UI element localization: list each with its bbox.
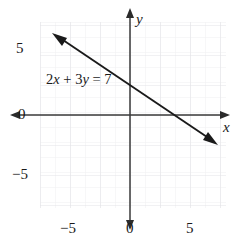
y-tick-label-neg5: −5 [12,167,28,182]
x-tick-label-neg5: −5 [60,221,76,236]
x-axis-name-label: x [223,120,230,135]
coordinate-plane-svg [0,0,245,246]
y-tick-label-0: 0 [18,107,26,122]
y-axis-name-label: y [136,12,143,27]
y-tick-label-5: 5 [16,41,24,56]
y-axis-top-arrowhead [126,8,134,18]
eq-plus: + [60,71,75,87]
equation-annotation: 2x + 3y = 7 [46,72,112,87]
eq-equals: = [89,71,104,87]
x-tick-label-5: 5 [186,221,194,236]
graph-figure: 5 0 −5 −5 0 5 y x 2x + 3y = 7 [0,0,245,246]
x-tick-label-0: 0 [126,221,134,236]
eq-rhs: 7 [104,71,111,87]
